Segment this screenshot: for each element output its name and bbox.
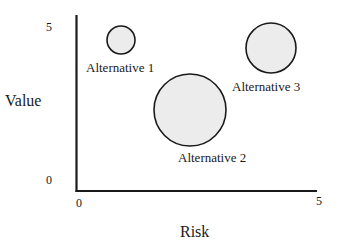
label-alternative-1: Alternative 1 [86,61,154,74]
bubble-alternative-1 [107,26,135,54]
y-tick-min: 0 [46,174,52,186]
x-axis-title: Risk [180,224,209,240]
bubble-alternative-2 [154,74,226,146]
bubble-alternative-3 [246,23,296,73]
label-alternative-3: Alternative 3 [232,80,300,93]
y-tick-max: 5 [46,21,52,33]
label-alternative-2: Alternative 2 [178,151,246,164]
x-tick-max: 5 [316,195,322,207]
x-tick-min: 0 [76,197,82,209]
y-axis-title: Value [5,93,41,109]
bubble-chart [0,0,342,246]
